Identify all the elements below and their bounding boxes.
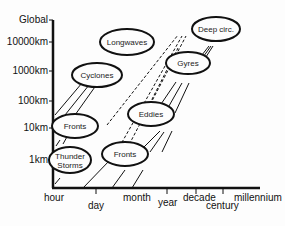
bubble-fronts-atm: Fronts (55, 122, 95, 131)
x-label-hour: hour (44, 192, 64, 203)
x-label-month: month (123, 192, 151, 203)
bubble-eddies: Eddies (131, 110, 171, 119)
scale-diagram: Global 10000km 1000km 100km 10km 1km hou… (0, 0, 285, 226)
y-label-10000km: 10000km (0, 36, 48, 47)
bubble-gyres: Gyres (168, 59, 208, 68)
bubble-thunderstorms-line1: Thunder (55, 152, 85, 161)
bubble-cyclones: Cyclones (72, 71, 122, 80)
y-label-100km: 100km (0, 95, 48, 106)
x-label-day: day (88, 200, 104, 211)
y-label-1km: 1km (0, 154, 48, 165)
y-label-global: Global (0, 14, 48, 25)
bubble-deep-circ: Deep circ. (193, 25, 239, 34)
x-label-year: year (158, 197, 177, 208)
y-label-10km: 10km (0, 122, 48, 133)
bubble-thunderstorms-line2: Storms (57, 161, 82, 170)
bubble-fronts-ocean: Fronts (105, 150, 145, 159)
bubble-longwaves: Longwaves (100, 38, 154, 47)
x-label-millennium: millennium (234, 192, 282, 203)
y-label-1000km: 1000km (0, 65, 48, 76)
bubble-thunderstorms: ThunderStorms (51, 152, 89, 170)
